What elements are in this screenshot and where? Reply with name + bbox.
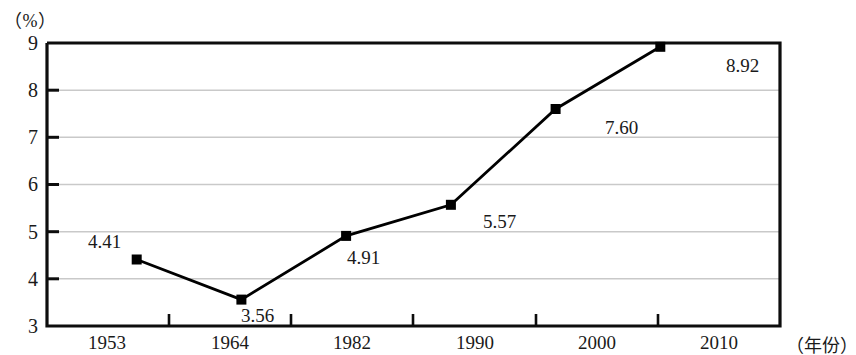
x-axis-ticks — [169, 314, 658, 326]
data-point-2010 — [655, 42, 665, 52]
data-point-1964 — [236, 295, 246, 305]
line-chart: （%） （年份） 9 8 7 6 5 4 3 1953 1964 1982 19… — [0, 0, 856, 355]
data-point-1953 — [132, 255, 142, 265]
gridlines — [47, 90, 780, 279]
data-point-2000 — [551, 104, 561, 114]
series-markers — [132, 42, 666, 305]
plot-canvas — [0, 0, 856, 355]
series-line — [137, 47, 661, 300]
data-point-1982 — [341, 231, 351, 241]
y-axis-ticks — [47, 90, 59, 279]
data-point-1990 — [446, 200, 456, 210]
